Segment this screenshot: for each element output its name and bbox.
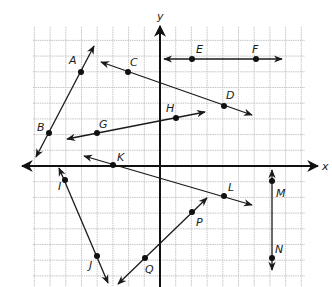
point-l — [221, 193, 227, 199]
point-label-d: D — [226, 89, 234, 102]
line-gh — [67, 112, 205, 139]
point-label-f: F — [252, 43, 259, 56]
coordinate-plane: xy ABCDEFGHKLIJMNPQ — [0, 0, 332, 287]
point-label-j: J — [87, 259, 92, 272]
point-h — [173, 115, 179, 121]
point-k — [110, 162, 116, 168]
y-axis-label: y — [156, 10, 164, 23]
point-label-p: P — [196, 216, 203, 229]
point-label-e: E — [196, 43, 203, 56]
x-axis-label: x — [321, 160, 329, 173]
point-m — [269, 178, 275, 184]
point-q — [142, 255, 148, 261]
point-a — [78, 69, 84, 75]
point-label-i: I — [58, 180, 61, 193]
coordinate-plane-diagram: xy ABCDEFGHKLIJMNPQ — [0, 0, 332, 287]
point-label-l: L — [228, 181, 234, 194]
point-e — [189, 56, 195, 62]
point-label-a: A — [68, 54, 77, 67]
points-layer: ABCDEFGHKLIJMNPQ — [37, 43, 286, 276]
point-label-n: N — [275, 243, 283, 256]
point-p — [189, 209, 195, 215]
point-b — [46, 130, 52, 136]
line-ij — [59, 168, 108, 283]
point-label-k: K — [117, 151, 125, 164]
line-ab — [36, 46, 94, 157]
point-label-q: Q — [145, 263, 154, 276]
point-label-h: H — [166, 102, 174, 115]
point-label-c: C — [130, 56, 138, 69]
point-j — [94, 253, 100, 259]
point-f — [253, 56, 259, 62]
point-i — [62, 177, 68, 183]
point-label-b: B — [37, 121, 45, 134]
point-c — [125, 69, 131, 75]
point-d — [221, 103, 227, 109]
point-label-m: M — [276, 187, 286, 200]
point-label-g: G — [99, 118, 108, 131]
